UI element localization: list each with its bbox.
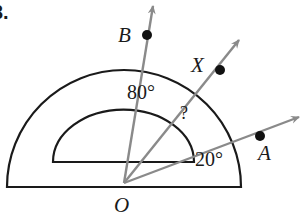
unknown-angle-label: ? bbox=[180, 104, 188, 122]
label-X: X bbox=[191, 55, 204, 76]
angle-label-80: 80° bbox=[127, 82, 155, 102]
problem-number: 3. bbox=[0, 2, 9, 22]
point-X bbox=[215, 65, 225, 75]
label-O: O bbox=[114, 195, 129, 216]
point-A bbox=[255, 131, 265, 141]
protractor-angle-diagram: 3. B X A O 80° 20° ? bbox=[0, 0, 306, 216]
diagram-canvas bbox=[0, 0, 306, 216]
label-B: B bbox=[118, 25, 131, 46]
point-B bbox=[142, 30, 152, 40]
angle-label-20: 20° bbox=[195, 149, 223, 169]
label-A: A bbox=[258, 143, 271, 164]
protractor-inner-arc bbox=[53, 110, 194, 162]
